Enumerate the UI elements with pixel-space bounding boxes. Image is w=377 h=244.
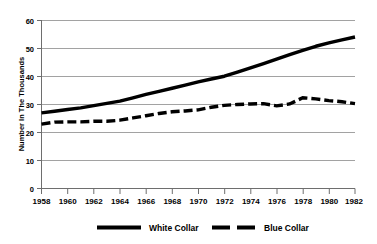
y-tick-label-40: 40 [26, 73, 34, 82]
y-tick-label-10: 10 [26, 157, 34, 166]
x-tick-label-1966: 1966 [137, 197, 155, 206]
x-tick-label-1962: 1962 [85, 197, 103, 206]
x-tick-label-1978: 1978 [294, 197, 312, 206]
line-chart-figure: Number In The Thousands 60 50 40 30 [0, 0, 377, 244]
series-line-blue-collar [42, 98, 356, 124]
x-tick-label-1976: 1976 [268, 197, 286, 206]
x-tick-label-1968: 1968 [163, 197, 181, 206]
x-tick-label-1972: 1972 [216, 197, 234, 206]
y-tick-label-20: 20 [26, 129, 34, 138]
x-tick-label-1960: 1960 [59, 197, 77, 206]
data-series-group [42, 37, 356, 124]
y-axis-title: Number In The Thousands [17, 57, 26, 152]
x-tick-label-1980: 1980 [320, 197, 338, 206]
legend-item-blue-collar: Blue Collar [212, 223, 310, 233]
legend-item-white-collar: White Collar [97, 223, 199, 233]
x-tick-label-1970: 1970 [190, 197, 208, 206]
y-gridlines [41, 21, 355, 161]
chart-svg: Number In The Thousands 60 50 40 30 [0, 0, 377, 244]
x-tick-label-1964: 1964 [111, 197, 129, 206]
y-tick-label-30: 30 [26, 101, 34, 110]
x-tick-label-1958: 1958 [33, 197, 51, 206]
legend-label-white-collar: White Collar [149, 223, 199, 233]
y-axis [37, 20, 42, 189]
x-tick-label-1974: 1974 [242, 197, 260, 206]
y-tick-label-0: 0 [30, 185, 34, 194]
chart-legend: White Collar Blue Collar [97, 223, 310, 233]
y-tick-label-60: 60 [26, 17, 34, 26]
y-tick-label-50: 50 [26, 45, 34, 54]
x-tick-labels: 1958 1960 1962 1964 1966 1968 1970 1972 … [33, 197, 364, 206]
x-tick-label-1982: 1982 [345, 197, 363, 206]
y-tick-labels: 60 50 40 30 20 10 0 [26, 17, 34, 194]
x-axis [41, 189, 355, 195]
legend-label-blue-collar: Blue Collar [264, 223, 310, 233]
